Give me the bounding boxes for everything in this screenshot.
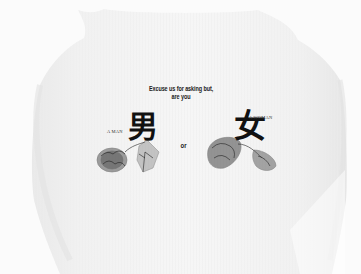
label-a-man: A MAN <box>107 129 123 134</box>
connector-or: or <box>181 142 187 149</box>
label-a-woman: A WOMAN <box>249 115 272 120</box>
print-headline: Excuse us for asking but, are you <box>141 85 221 101</box>
shirt-print: Excuse us for asking but, are you A MAN … <box>0 0 361 274</box>
headline-line-2: are you <box>141 93 221 101</box>
headline-line-1: Excuse us for asking but, <box>141 85 221 93</box>
kanji-man: 男 <box>128 112 158 142</box>
photo-scene: Excuse us for asking but, are you A MAN … <box>0 0 361 274</box>
